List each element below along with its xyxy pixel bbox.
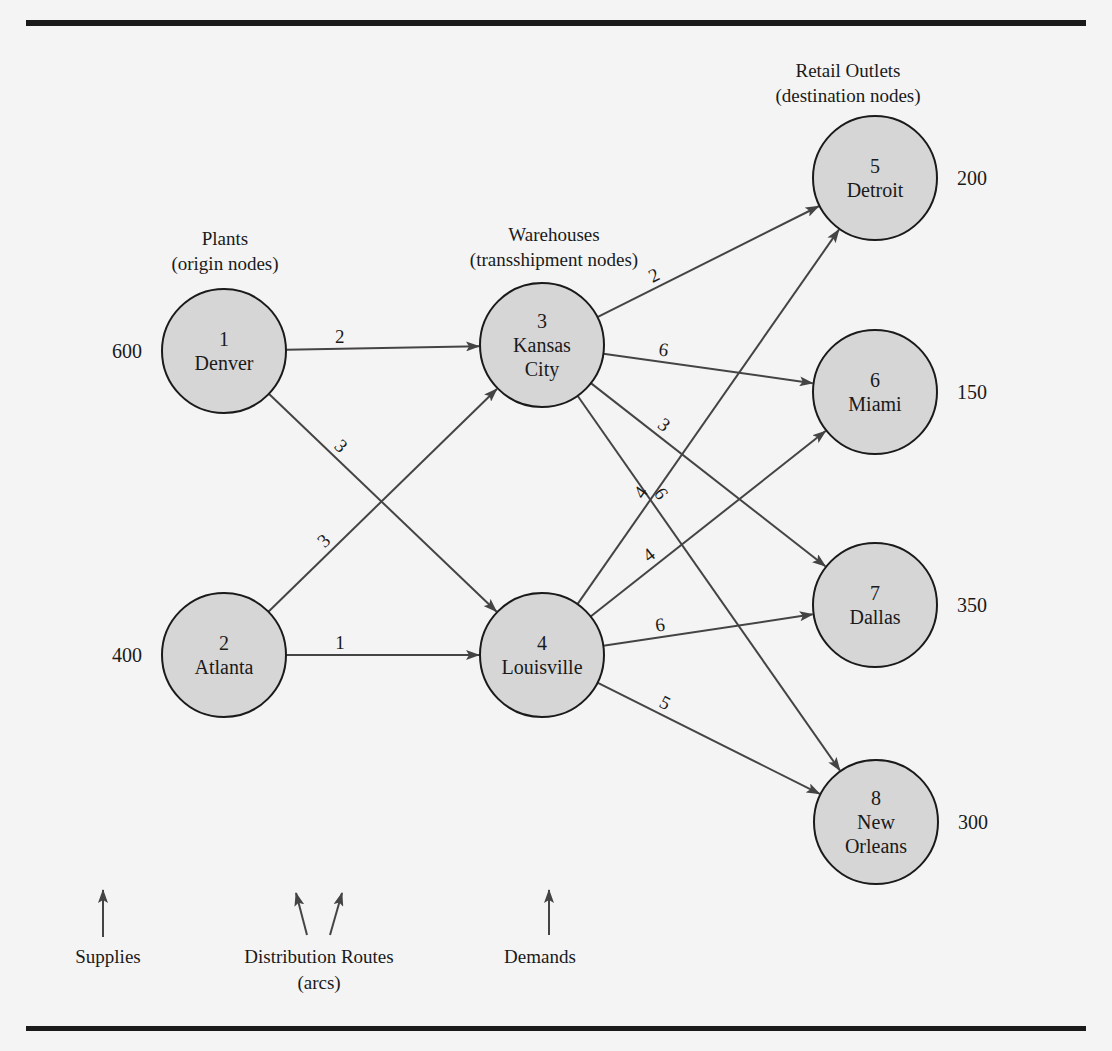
node-louisville: 4Louisville	[480, 593, 604, 717]
transshipment-network-diagram: Plants (origin nodes) Warehouses (transs…	[0, 0, 1112, 1051]
node-new-orleans: 8NewOrleans300	[814, 760, 988, 884]
svg-text:Plants: Plants	[202, 228, 248, 249]
arc-cost-label: 5	[656, 691, 674, 714]
supplies-annotation: Supplies	[75, 890, 140, 967]
node-number: 8	[871, 787, 881, 809]
arc-cost-label: 3	[313, 530, 334, 552]
svg-text:Distribution Routes: Distribution Routes	[244, 946, 393, 967]
arc-4-5: 4	[577, 230, 838, 605]
node-name: Dallas	[849, 606, 900, 628]
node-atlanta: 2Atlanta400	[112, 593, 286, 717]
svg-text:Demands: Demands	[504, 946, 576, 967]
node-denver: 1Denver600	[112, 289, 286, 413]
demand-value: 350	[957, 594, 987, 616]
arc-cost-label: 2	[335, 326, 345, 347]
warehouses-header: Warehouses (transshipment nodes)	[470, 224, 638, 271]
arc-cost-label: 3	[654, 413, 674, 435]
node-kansas-city: 3KansasCity	[480, 283, 604, 407]
arc-3-6: 6	[603, 338, 812, 383]
node-number: 1	[219, 328, 229, 350]
demands-annotation: Demands	[504, 890, 576, 967]
retail-outlets-header: Retail Outlets (destination nodes)	[775, 60, 920, 107]
up-left-arrow-icon	[296, 893, 307, 935]
node-name: New	[857, 811, 895, 833]
node-number: 2	[219, 632, 229, 654]
demand-value: 200	[957, 167, 987, 189]
plants-header: Plants (origin nodes)	[171, 228, 278, 275]
top-rule	[26, 20, 1086, 26]
svg-text:Supplies: Supplies	[75, 946, 140, 967]
arc-cost-label: 6	[654, 614, 666, 636]
node-name: Kansas	[513, 334, 571, 356]
node-detroit: 5Detroit200	[813, 116, 987, 240]
svg-text:Retail Outlets: Retail Outlets	[795, 60, 900, 81]
arc-cost-label: 1	[335, 632, 345, 653]
supply-value: 600	[112, 340, 142, 362]
node-number: 7	[870, 582, 880, 604]
arc-cost-label: 4	[638, 543, 659, 566]
node-name: Denver	[195, 352, 254, 374]
arc-cost-label: 6	[650, 484, 673, 504]
node-number: 6	[870, 369, 880, 391]
arc-cost-label: 2	[645, 263, 663, 286]
node-name: Atlanta	[195, 656, 254, 678]
up-right-arrow-icon	[330, 893, 342, 935]
bottom-rule	[26, 1026, 1086, 1031]
svg-text:(arcs): (arcs)	[297, 972, 340, 994]
node-number: 3	[537, 310, 547, 332]
node-number: 5	[870, 155, 880, 177]
node-name: Orleans	[845, 835, 907, 857]
node-number: 4	[537, 632, 547, 654]
node-dallas: 7Dallas350	[813, 543, 987, 667]
arc-4-7: 6	[603, 614, 812, 646]
svg-text:Warehouses: Warehouses	[508, 224, 599, 245]
arc-1-3: 2	[286, 326, 479, 350]
arc-4-6: 4	[591, 431, 826, 617]
svg-text:(destination nodes): (destination nodes)	[775, 85, 920, 107]
arc-2-4: 1	[286, 632, 479, 655]
supply-value: 400	[112, 644, 142, 666]
node-name: Miami	[848, 393, 902, 415]
node-name: Detroit	[847, 179, 904, 201]
svg-text:(transshipment nodes): (transshipment nodes)	[470, 249, 638, 271]
distribution-routes-annotation: Distribution Routes (arcs)	[244, 893, 393, 994]
node-name: City	[525, 358, 559, 381]
arc-cost-label: 6	[658, 338, 670, 360]
demand-value: 300	[958, 811, 988, 833]
node-miami: 6Miami150	[813, 330, 987, 454]
arc-4-8: 5	[597, 683, 819, 794]
demand-value: 150	[957, 381, 987, 403]
arc-3-7: 3	[591, 383, 825, 566]
node-name: Louisville	[501, 656, 582, 678]
arc-cost-label: 3	[330, 435, 351, 457]
svg-text:(origin nodes): (origin nodes)	[171, 253, 278, 275]
